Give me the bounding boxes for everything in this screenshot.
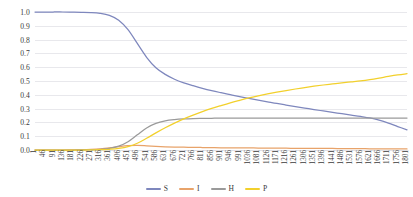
x-axis-tick-label: 991 <box>236 150 243 161</box>
x-axis: 1469113618122627131636140645149654158663… <box>35 150 407 184</box>
x-axis-tick-label: 1576 <box>357 150 364 164</box>
series-line-s <box>35 12 407 130</box>
x-axis-tick-label: 856 <box>208 150 215 161</box>
legend-label: S <box>164 185 168 193</box>
y-axis-tick-label: 0.7 <box>20 49 30 58</box>
x-axis-tick-label: 316 <box>96 150 103 161</box>
x-axis-tick-label: 1396 <box>320 150 327 164</box>
x-axis-tick-label: 1711 <box>385 150 392 164</box>
x-axis-tick-label: 1621 <box>366 150 373 164</box>
x-axis-tick-label: 1261 <box>292 150 299 164</box>
x-axis-tick-label: 136 <box>59 150 66 161</box>
x-axis-tick-label: 1216 <box>282 150 289 164</box>
y-axis-tick-label: 0.6 <box>20 63 30 72</box>
x-axis-tick-label: 1036 <box>245 150 252 164</box>
x-axis-tick-label: 496 <box>134 150 141 161</box>
y-axis-tick-label: 0.1 <box>20 132 30 141</box>
x-axis-tick-label: 1531 <box>348 150 355 164</box>
x-axis-tick-label: 1171 <box>273 150 280 164</box>
x-axis-tick-label: 91 <box>50 150 57 157</box>
y-axis-tick-label: 1.0 <box>20 8 30 17</box>
legend-label: H <box>229 185 234 193</box>
chart-container: 1.00.90.80.70.60.50.40.30.20.10.0 146911… <box>0 0 413 197</box>
x-axis-tick-label: 361 <box>106 150 113 161</box>
legend-item-s[interactable]: S <box>146 185 168 193</box>
x-axis-tick-label: 226 <box>78 150 85 161</box>
x-axis-tick-label: 1666 <box>375 150 382 164</box>
x-axis-tick-label: 541 <box>143 150 150 161</box>
series-lines <box>35 12 407 150</box>
x-axis-tick-label: 901 <box>217 150 224 161</box>
y-axis-tick-label: 0.2 <box>20 118 30 127</box>
x-axis-tick-label: 631 <box>162 150 169 161</box>
x-axis-tick-label: 1756 <box>394 150 401 164</box>
x-axis-tick-label: 811 <box>199 150 206 161</box>
series-line-p <box>35 74 407 150</box>
x-axis-tick-label: 586 <box>152 150 159 161</box>
y-axis-tick-label: 0.0 <box>20 146 30 155</box>
legend-swatch-icon <box>179 188 194 190</box>
y-axis-tick-label: 0.8 <box>20 35 30 44</box>
x-axis-tick-label: 1 <box>31 150 38 154</box>
x-axis-tick-label: 1801 <box>403 150 410 164</box>
y-axis-tick-label: 0.9 <box>20 21 30 30</box>
x-axis-tick-label: 766 <box>189 150 196 161</box>
legend-swatch-icon <box>211 188 226 190</box>
chart-legend: SIHP <box>0 185 413 193</box>
series-line-h <box>35 118 407 150</box>
plot-area <box>35 12 407 150</box>
y-axis-tick-label: 0.4 <box>20 90 30 99</box>
legend-item-h[interactable]: H <box>211 185 234 193</box>
x-axis-tick-label: 1441 <box>329 150 336 164</box>
legend-swatch-icon <box>245 188 260 190</box>
y-axis-tick-label: 0.3 <box>20 104 30 113</box>
legend-label: P <box>263 185 267 193</box>
x-axis-tick-label: 181 <box>69 150 76 161</box>
x-axis-tick-label: 676 <box>171 150 178 161</box>
y-axis-tick-label: 0.5 <box>20 77 30 86</box>
y-axis: 1.00.90.80.70.60.50.40.30.20.10.0 <box>0 12 33 150</box>
x-axis-tick-label: 1486 <box>338 150 345 164</box>
x-axis-tick-label: 271 <box>87 150 94 161</box>
x-axis-tick-label: 1126 <box>264 150 271 164</box>
x-axis-tick-label: 1081 <box>255 150 262 164</box>
x-axis-tick-label: 1306 <box>301 150 308 164</box>
x-axis-tick-label: 451 <box>124 150 131 161</box>
x-axis-tick-label: 1351 <box>310 150 317 164</box>
legend-item-i[interactable]: I <box>179 185 200 193</box>
legend-item-p[interactable]: P <box>245 185 267 193</box>
legend-swatch-icon <box>146 188 161 190</box>
x-axis-tick-label: 46 <box>41 150 48 157</box>
legend-label: I <box>197 185 200 193</box>
x-axis-tick-label: 406 <box>115 150 122 161</box>
x-axis-tick-label: 946 <box>227 150 234 161</box>
x-axis-tick-label: 721 <box>180 150 187 161</box>
